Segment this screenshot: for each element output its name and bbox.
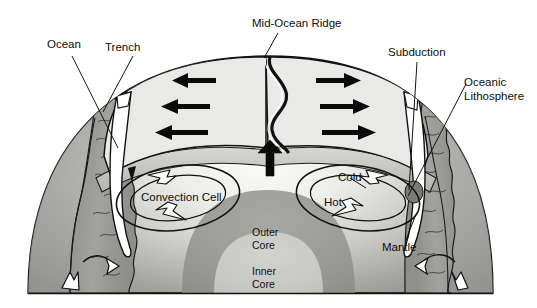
label-convection-cell: Convection Cell <box>141 191 222 203</box>
plate-tectonics-diagram: Ocean Trench Mid-Ocean Ridge Subduction … <box>0 0 537 308</box>
label-mantle: Mantle <box>382 241 417 253</box>
label-cold: Cold <box>338 171 362 183</box>
label-oceanic-lithosphere-line1: Oceanic <box>464 76 506 88</box>
label-subduction: Subduction <box>388 46 446 58</box>
label-outer-core-line2: Core <box>252 239 275 251</box>
label-oceanic-lithosphere-line2: Lithosphere <box>464 90 524 102</box>
diagram-canvas: Ocean Trench Mid-Ocean Ridge Subduction … <box>0 0 537 308</box>
label-inner-core-line2: Core <box>252 278 275 290</box>
label-trench: Trench <box>105 41 140 53</box>
label-ocean: Ocean <box>47 38 81 50</box>
label-inner-core-line1: Inner <box>252 265 276 277</box>
label-mid-ocean-ridge: Mid-Ocean Ridge <box>252 17 341 29</box>
leader-mid-ocean-ridge <box>264 33 278 58</box>
label-outer-core-line1: Outer <box>252 226 279 238</box>
label-hot: Hot <box>324 196 343 208</box>
